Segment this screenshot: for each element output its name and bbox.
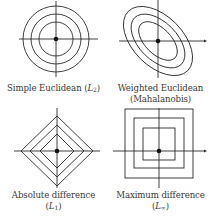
concentric-squares-diagram	[107, 108, 215, 190]
panel-simple-euclidean: Simple Euclidean (L2)	[0, 0, 107, 108]
concentric-diamonds-diagram	[0, 108, 107, 190]
origin-point	[156, 39, 161, 44]
label-maximum-difference: Maximum difference (L∞)	[107, 190, 214, 213]
origin-point	[157, 149, 162, 154]
panel-maximum-difference: Maximum difference (L∞)	[107, 108, 214, 217]
label-simple-euclidean: Simple Euclidean (L2)	[0, 83, 107, 96]
panel-absolute-difference: Absolute difference (L1)	[0, 108, 107, 217]
label-weighted-euclidean: Weighted Euclidean (Mahalanobis)	[107, 83, 214, 104]
concentric-circles-diagram	[0, 0, 107, 80]
rotated-ellipses-diagram	[107, 0, 215, 80]
panel-weighted-euclidean: Weighted Euclidean (Mahalanobis)	[107, 0, 214, 108]
origin-point	[55, 149, 60, 154]
origin-point	[54, 37, 59, 42]
label-absolute-difference: Absolute difference (L1)	[0, 190, 107, 213]
